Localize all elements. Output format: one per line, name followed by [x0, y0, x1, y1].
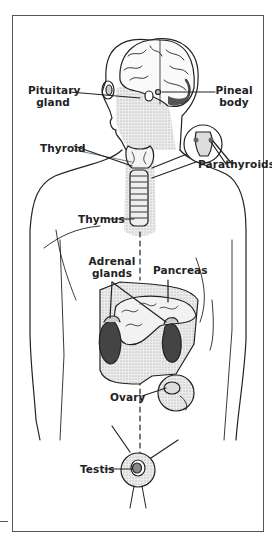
endocrine-illustration — [0, 0, 272, 541]
label-thyroid: Thyroid — [40, 142, 86, 154]
label-line: body — [214, 96, 254, 108]
label-thymus: Thymus — [78, 213, 125, 225]
label-pancreas: Pancreas — [153, 264, 208, 276]
label-line: Adrenal — [88, 255, 136, 267]
label-adrenal-glands: Adrenal glands — [88, 255, 136, 279]
label-line: glands — [88, 267, 136, 279]
label-line: Pineal — [214, 84, 254, 96]
label-testis: Testis — [80, 463, 115, 475]
label-parathyroids: Parathyroids — [198, 158, 272, 170]
label-ovary: Ovary — [110, 391, 145, 403]
label-pineal-body: Pineal body — [214, 84, 254, 108]
label-line: Pituitary — [28, 84, 78, 96]
label-pituitary-gland: Pituitary gland — [28, 84, 78, 108]
label-line: gland — [28, 96, 78, 108]
